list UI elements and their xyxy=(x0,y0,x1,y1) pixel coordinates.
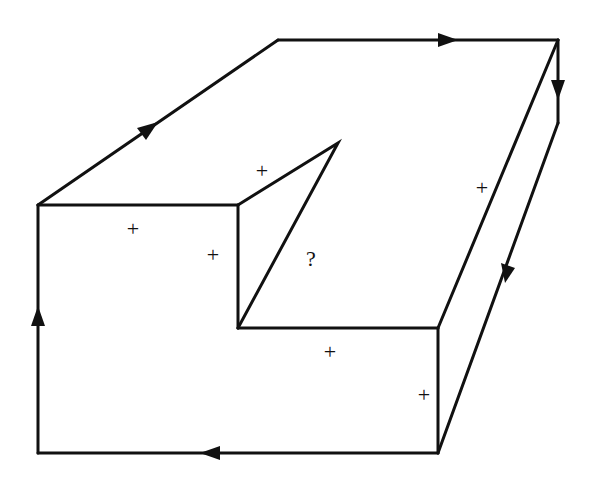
label-plus: + xyxy=(127,216,139,241)
edge-notch-triangle xyxy=(238,143,338,328)
label-plus: + xyxy=(207,242,219,267)
arrow-left-bottom-icon xyxy=(200,446,220,460)
arrow-up-slant-icon xyxy=(137,122,158,140)
block-diagram: + + + ? + + + xyxy=(0,0,592,477)
label-plus: + xyxy=(324,339,336,364)
label-plus: + xyxy=(476,175,488,200)
edge-top-left-slant xyxy=(38,40,278,205)
arrow-down-right-icon xyxy=(551,80,565,100)
diagram-canvas: + + + ? + + + xyxy=(0,0,592,477)
arrow-down-slant-icon xyxy=(501,263,515,283)
direction-arrows xyxy=(31,33,565,460)
label-plus: + xyxy=(256,158,268,183)
label-question: ? xyxy=(306,246,316,271)
arrow-right-top-icon xyxy=(438,33,458,47)
arrow-up-left-icon xyxy=(31,306,45,326)
label-plus: + xyxy=(418,382,430,407)
